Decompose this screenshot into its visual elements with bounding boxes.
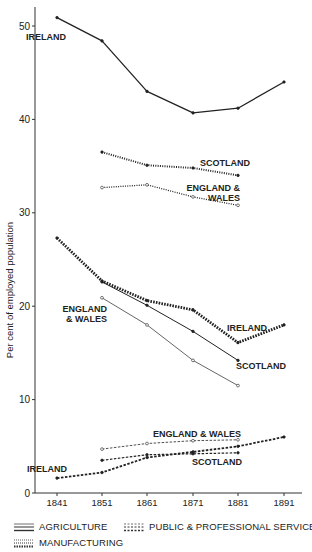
data-point	[237, 384, 240, 387]
line-chart: 01020304050184118511861187118811891 IREL…	[0, 0, 312, 552]
region-label: IRELAND	[27, 464, 67, 474]
data-point	[192, 167, 195, 170]
data-point	[56, 237, 59, 240]
data-point	[146, 183, 149, 186]
x-tick-label: 1841	[46, 497, 67, 508]
data-point	[146, 442, 149, 445]
data-point	[237, 174, 240, 177]
x-tick-label: 1891	[273, 497, 294, 508]
y-tick-label: 20	[19, 301, 31, 312]
data-point	[101, 471, 104, 474]
region-label: ENGLAND & WALES	[153, 429, 241, 439]
data-point	[146, 456, 149, 459]
region-label: & WALES	[66, 314, 107, 324]
legend-item-manufacturing: MANUFACTURING	[14, 537, 123, 548]
data-point	[56, 477, 59, 480]
dashed-line-swatch-icon	[124, 522, 144, 532]
y-axis-label: Per cent of employed population	[4, 222, 15, 358]
x-tick-label: 1871	[182, 497, 203, 508]
region-label: SCOTLAND	[236, 361, 286, 371]
data-point	[283, 324, 286, 327]
data-point	[101, 459, 104, 462]
region-labels: IRELANDSCOTLANDENGLAND &WALESENGLAND& WA…	[26, 32, 286, 474]
data-point	[101, 40, 104, 43]
legend-label: AGRICULTURE	[39, 521, 108, 532]
data-point	[192, 196, 195, 199]
x-tick-label: 1851	[91, 497, 112, 508]
region-label: IRELAND	[26, 32, 66, 42]
data-point	[237, 204, 240, 207]
region-label: SCOTLAND	[192, 457, 242, 467]
series-line	[57, 437, 284, 478]
data-point	[146, 90, 149, 93]
data-point	[283, 436, 286, 439]
region-label: WALES	[208, 193, 240, 203]
dotted-line-swatch-icon	[14, 538, 34, 548]
data-point	[101, 151, 104, 154]
y-tick-label: 40	[19, 114, 31, 125]
legend-label: MANUFACTURING	[39, 537, 123, 548]
data-point	[146, 164, 149, 167]
series-line	[102, 440, 238, 449]
data-point	[101, 296, 104, 299]
data-point	[192, 359, 195, 362]
data-point	[146, 324, 149, 327]
data-point	[237, 452, 240, 455]
series-lines	[56, 16, 286, 479]
y-tick-label: 0	[24, 488, 30, 499]
y-tick-label: 50	[19, 21, 31, 32]
data-point	[56, 16, 59, 19]
series-line	[57, 18, 284, 113]
solid-line-swatch-icon	[14, 522, 34, 532]
data-point	[237, 341, 240, 344]
data-point	[101, 280, 104, 283]
data-point	[237, 445, 240, 448]
data-point	[146, 304, 149, 307]
data-point	[192, 112, 195, 115]
legend-item-agriculture: AGRICULTURE	[14, 521, 108, 532]
data-point	[192, 451, 195, 454]
region-label: IRELAND	[227, 323, 267, 333]
data-point	[192, 309, 195, 312]
data-point	[192, 330, 195, 333]
data-point	[101, 448, 104, 451]
x-tick-label: 1881	[227, 497, 248, 508]
legend-item-services: PUBLIC & PROFESSIONAL SERVICES	[124, 521, 312, 532]
region-label: ENGLAND &	[187, 183, 241, 193]
data-point	[101, 186, 104, 189]
data-point	[237, 107, 240, 110]
y-tick-label: 10	[19, 394, 31, 405]
data-point	[146, 453, 149, 456]
region-label: ENGLAND	[63, 304, 108, 314]
series-line	[102, 282, 238, 361]
data-point	[283, 81, 286, 84]
data-point	[146, 299, 149, 302]
series-line	[102, 298, 238, 386]
x-tick-label: 1861	[136, 497, 157, 508]
region-label: SCOTLAND	[200, 158, 250, 168]
data-point	[192, 439, 195, 442]
legend-label: PUBLIC & PROFESSIONAL SERVICES	[149, 521, 312, 532]
y-tick-label: 30	[19, 207, 31, 218]
